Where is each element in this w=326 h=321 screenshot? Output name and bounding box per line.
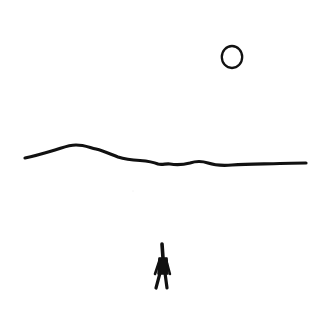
paper-speck bbox=[133, 191, 134, 192]
drawing-canvas bbox=[0, 0, 326, 321]
